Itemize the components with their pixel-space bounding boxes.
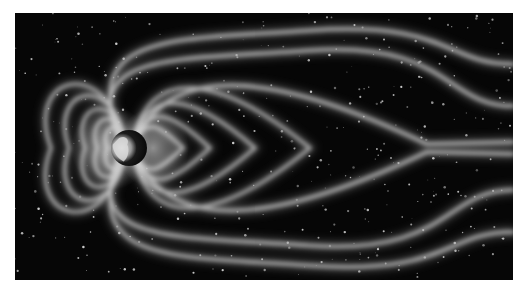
earth-globe-icon [111, 130, 147, 166]
magnetosphere-illustration: Illustration of Earth's magnetosphere: g… [15, 13, 513, 280]
magnetosphere-scene [15, 13, 513, 280]
